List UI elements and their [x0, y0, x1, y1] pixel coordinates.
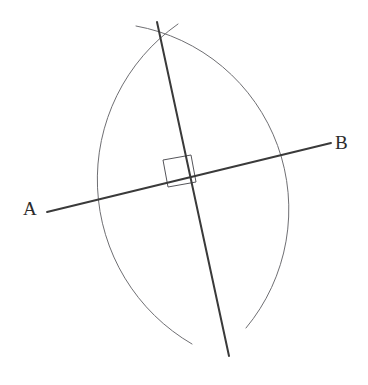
- figure-background: [0, 0, 368, 385]
- point-label-a: A: [23, 199, 37, 218]
- figure-root: A B: [0, 0, 368, 385]
- point-label-b: B: [335, 133, 348, 152]
- geometry-canvas: [0, 0, 368, 385]
